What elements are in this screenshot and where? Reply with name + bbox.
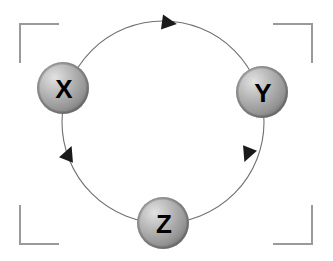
- bracket-bottom-left-icon: [20, 206, 58, 244]
- arrowhead-x-to-y-icon: [161, 15, 178, 32]
- node-x-label: X: [55, 74, 73, 104]
- diagram-canvas: X Y Z: [0, 0, 333, 261]
- cycle-path-circle: [62, 21, 264, 223]
- arrowhead-y-to-z-icon: [237, 145, 257, 165]
- node-z[interactable]: Z: [137, 197, 189, 249]
- bracket-top-right-icon: [274, 24, 312, 62]
- arrowhead-z-to-x-icon: [59, 143, 79, 163]
- node-y-label: Y: [254, 78, 271, 108]
- node-x[interactable]: X: [37, 62, 89, 114]
- node-z-label: Z: [156, 209, 172, 239]
- bracket-bottom-right-icon: [274, 206, 312, 244]
- bracket-top-left-icon: [20, 24, 58, 62]
- cycle-diagram: X Y Z: [0, 0, 333, 261]
- node-y[interactable]: Y: [236, 66, 288, 118]
